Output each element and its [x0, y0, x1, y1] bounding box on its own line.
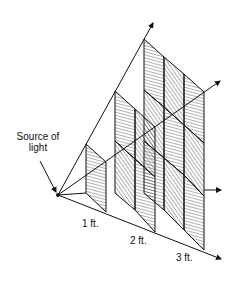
distance-label-2ft: 2 ft. [130, 235, 147, 246]
plane-1ft [86, 144, 106, 212]
inverse-square-diagram: Source of light 1 ft. 2 ft. 3 ft. [0, 0, 238, 282]
distance-label-1ft: 1 ft. [82, 218, 99, 229]
light-source-point [56, 193, 60, 197]
source-label: Source of light [16, 131, 60, 153]
source-label-line1: Source of [16, 131, 60, 142]
distance-label-3ft: 3 ft. [176, 252, 193, 263]
source-label-line2: light [16, 142, 60, 153]
